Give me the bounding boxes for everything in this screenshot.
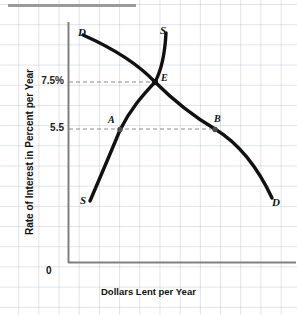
- point-label-b: B: [214, 113, 221, 124]
- supply-curve-label-bottom-left: S: [80, 194, 86, 206]
- point-marker-e: [152, 79, 158, 85]
- point-label-a: A: [108, 114, 115, 125]
- y-tick-label-5-5: 5.5: [26, 122, 64, 133]
- point-label-e: E: [161, 72, 168, 83]
- point-marker-a: [117, 127, 122, 132]
- x-axis-title: Dollars Lent per Year: [101, 286, 196, 297]
- y-axis-title: Rate of Interest in Percent per Year: [24, 69, 35, 235]
- demand-curve-label-bottom-right: D: [272, 196, 280, 208]
- supply-curve-label-top-right: S: [160, 24, 166, 36]
- demand-curve-label-top-left: D: [78, 26, 86, 38]
- y-tick-label-7-5-percent: 7.5%: [26, 75, 64, 86]
- plot-area-svg: [0, 0, 297, 315]
- supply-demand-chart-figure: Rate of Interest in Percent per Year Dol…: [0, 0, 297, 315]
- point-marker-b: [212, 127, 217, 132]
- origin-label: 0: [46, 265, 52, 276]
